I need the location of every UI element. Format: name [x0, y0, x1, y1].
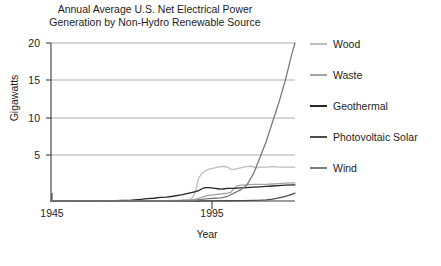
gridlines: [51, 43, 295, 155]
legend-item-label: Geothermal: [333, 100, 388, 112]
series-line-waste: [51, 183, 295, 201]
chart-figure: Annual Average U.S. Net Electrical Power…: [0, 0, 441, 266]
y-tick-label-20: 20: [14, 37, 40, 49]
legend-swatch-icon: [310, 74, 327, 76]
legend-item-wood[interactable]: Wood: [310, 38, 441, 69]
x-tick-label-1995: 1995: [187, 207, 237, 219]
y-tick-label-5: 5: [14, 149, 40, 161]
legend-item-geothermal[interactable]: Geothermal: [310, 100, 441, 131]
data-series-layer: [51, 43, 295, 201]
chart-legend: WoodWasteGeothermalPhotovoltaic SolarWin…: [310, 38, 441, 193]
x-tick-label-1945: 1945: [27, 207, 77, 219]
legend-item-label: Wind: [333, 162, 357, 174]
y-tick-label-10: 10: [14, 112, 40, 124]
legend-item-label: Waste: [333, 69, 362, 81]
legend-swatch-icon: [310, 167, 327, 169]
legend-item-photovoltaic-solar[interactable]: Photovoltaic Solar: [310, 131, 441, 162]
legend-swatch-icon: [310, 136, 327, 138]
legend-swatch-icon: [310, 105, 327, 107]
y-tick-label-15: 15: [14, 74, 40, 86]
legend-item-label: Wood: [333, 38, 360, 50]
series-line-geothermal: [51, 185, 295, 201]
legend-item-wind[interactable]: Wind: [310, 162, 441, 193]
legend-swatch-icon: [310, 43, 327, 45]
series-line-wind: [51, 43, 295, 201]
x-axis-label: Year: [147, 228, 267, 240]
legend-item-label: Photovoltaic Solar: [333, 131, 418, 143]
legend-item-waste[interactable]: Waste: [310, 69, 441, 100]
